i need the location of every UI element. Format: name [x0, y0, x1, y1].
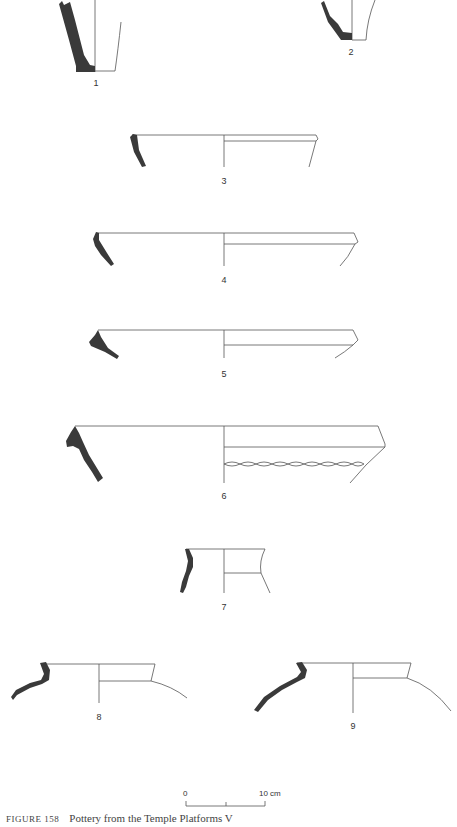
scale-start-label: 0 — [183, 789, 187, 798]
pottery-figure — [0, 0, 457, 827]
vessel-1-label: 1 — [93, 78, 98, 88]
vessel-4-label: 4 — [221, 275, 226, 285]
vessel-7-drawing — [186, 549, 270, 593]
vessel-4-drawing — [96, 233, 358, 266]
vessel-9-drawing — [297, 663, 451, 713]
vessel-6-section — [66, 426, 103, 482]
vessel-5-drawing — [98, 330, 358, 358]
figure-caption: FIGURE 158Pottery from the Temple Platfo… — [6, 812, 233, 824]
vessel-7-label: 7 — [221, 602, 226, 612]
vessel-2-drawing — [352, 0, 375, 40]
vessel-8-drawing — [44, 664, 187, 703]
vessel-2-label: 2 — [348, 47, 353, 57]
vessel-5-section — [89, 330, 119, 359]
vessel-1-section — [59, 1, 95, 72]
vessel-6-drawing — [75, 426, 385, 483]
scale-end-label: 10 cm — [259, 789, 281, 798]
vessel-8-section — [11, 662, 50, 700]
vessel-7-section — [180, 549, 193, 593]
vessel-1-drawing — [95, 0, 121, 72]
figure-caption-text: Pottery from the Temple Platforms V — [69, 812, 233, 824]
vessel-3-label: 3 — [221, 176, 226, 186]
scale-bar — [186, 801, 265, 806]
figure-number: FIGURE 158 — [6, 814, 59, 824]
vessel-2-section — [321, 1, 352, 40]
vessel-8-label: 8 — [96, 712, 101, 722]
vessel-4-section — [93, 232, 114, 266]
vessel-5-label: 5 — [221, 369, 226, 379]
vessel-9-section — [254, 662, 307, 712]
vessel-3-drawing — [132, 135, 318, 167]
vessel-3-section — [130, 134, 146, 167]
vessel-9-label: 9 — [350, 721, 355, 731]
vessel-6-label: 6 — [221, 491, 226, 501]
